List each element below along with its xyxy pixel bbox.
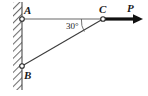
pin-joint-c bbox=[101, 17, 106, 22]
member-bc-line bbox=[22, 19, 103, 66]
diagram-canvas bbox=[0, 0, 148, 96]
label-point-b: B bbox=[24, 70, 31, 81]
wall-support bbox=[13, 2, 22, 90]
member-bc bbox=[22, 19, 103, 66]
label-point-a: A bbox=[24, 5, 31, 16]
force-arrow-head bbox=[133, 14, 143, 24]
pin-joint-b bbox=[20, 64, 25, 69]
label-angle-30: 30° bbox=[66, 22, 79, 31]
force-arrow-p bbox=[103, 14, 143, 24]
pin-joint-a bbox=[20, 17, 25, 22]
wall-hatching bbox=[13, 2, 22, 90]
label-force-p: P bbox=[127, 3, 134, 14]
label-point-c: C bbox=[99, 4, 106, 15]
statics-diagram: A B C P 30° bbox=[0, 0, 148, 96]
